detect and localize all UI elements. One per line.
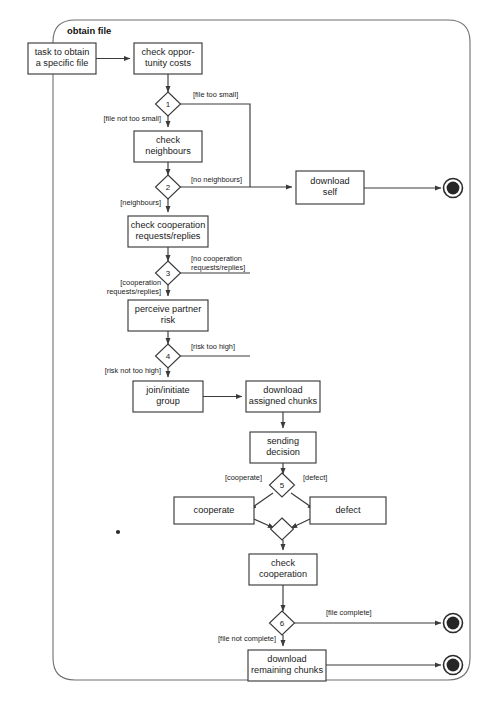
activity-label-task-to-obtain: task to obtain <box>35 47 90 57</box>
guard-neighbours: [neighbours] <box>120 198 161 207</box>
activity-label-download-self: self <box>323 187 338 197</box>
activity-node-download-assigned[interactable]: downloadassigned chunks <box>246 381 320 412</box>
activity-label-check-neighbours: neighbours <box>145 146 191 156</box>
activity-node-download-remaining[interactable]: downloadremaining chunks <box>248 650 326 681</box>
activity-node-check-opportunity[interactable]: check oppor-tunity costs <box>134 43 202 74</box>
end-node-end-file-complete[interactable] <box>444 614 463 633</box>
guard-defect: [defect] <box>303 473 327 482</box>
decision-node-decision-4[interactable]: 4 <box>156 344 181 368</box>
guard-risk-not-too-high: [risk not too high] <box>105 366 161 375</box>
activity-label-download-remaining: download <box>267 654 306 664</box>
page-speck <box>116 530 120 534</box>
decision-number-decision-4: 4 <box>166 352 171 361</box>
activity-node-task-to-obtain[interactable]: task to obtaina specific file <box>28 43 96 74</box>
activity-node-download-self[interactable]: downloadself <box>296 171 364 204</box>
end-node-end-remaining-complete[interactable] <box>444 656 463 675</box>
activity-label-check-opportunity: check oppor- <box>141 47 194 57</box>
activity-label-task-to-obtain: a specific file <box>36 58 89 68</box>
activity-label-sending-decision: sending <box>267 436 299 446</box>
activity-label-check-opportunity: tunity costs <box>145 58 191 68</box>
decision-node-decision-1[interactable]: 1 <box>156 92 181 116</box>
frame-title: obtain file <box>67 25 111 36</box>
activity-node-join-initiate-group[interactable]: join/initiategroup <box>133 381 203 412</box>
activity-node-defect[interactable]: defect <box>310 497 386 524</box>
edge-defect-to-merge <box>291 519 310 528</box>
speck-layer <box>116 530 120 534</box>
activity-label-perceive-partner-risk: perceive partner <box>135 304 201 314</box>
activity-label-perceive-partner-risk: risk <box>161 315 176 325</box>
merge-diamond-merge-cooperate-defect[interactable] <box>271 518 294 540</box>
activity-label-check-cooperation-req: check cooperation <box>131 220 206 230</box>
activity-label-download-assigned: download <box>263 385 302 395</box>
end-node-layer <box>444 179 463 675</box>
activity-diagram-canvas: obtain file task to obtaina specific fil… <box>0 0 487 707</box>
activity-label-download-remaining: remaining chunks <box>251 665 323 675</box>
activity-label-check-cooperation: cooperation <box>259 569 307 579</box>
guard-file-complete: [file complete] <box>326 608 372 617</box>
guard-coop-line1: [cooperation <box>120 278 161 287</box>
guard-file-too-small: [file too small] <box>193 90 238 99</box>
guard-no-coop-line1: [no cooperation <box>191 254 242 263</box>
activity-label-check-cooperation: check <box>271 558 295 568</box>
end-node-core-end-file-complete <box>447 617 460 630</box>
decision-node-decision-6[interactable]: 6 <box>270 611 295 635</box>
activity-node-check-cooperation[interactable]: checkcooperation <box>249 554 317 585</box>
activity-node-cooperate[interactable]: cooperate <box>174 497 254 524</box>
decision-number-decision-2: 2 <box>166 183 171 192</box>
activity-label-join-initiate-group: join/initiate <box>145 385 189 395</box>
decision-number-decision-5: 5 <box>280 481 285 490</box>
guard-no-neighbours: [no neighbours] <box>191 175 242 184</box>
activity-node-check-neighbours[interactable]: checkneighbours <box>134 131 202 162</box>
activity-node-perceive-partner-risk[interactable]: perceive partnerrisk <box>128 300 208 331</box>
decision-node-decision-2[interactable]: 2 <box>156 175 181 199</box>
activity-label-download-self: download <box>310 176 349 186</box>
end-node-end-download-self[interactable] <box>444 179 463 198</box>
decision-number-decision-6: 6 <box>280 619 285 628</box>
end-node-core-end-download-self <box>447 182 460 195</box>
activity-node-sending-decision[interactable]: sendingdecision <box>250 432 316 463</box>
guard-coop-line2: requests/replies] <box>107 287 161 296</box>
activity-label-sending-decision: decision <box>266 447 300 457</box>
guard-cooperate: [cooperate] <box>225 473 262 482</box>
end-node-core-end-remaining-complete <box>447 659 460 672</box>
decision-number-decision-1: 1 <box>166 100 171 109</box>
guard-file-not-too-small: [file not too small] <box>103 114 161 123</box>
activity-label-download-assigned: assigned chunks <box>249 396 318 406</box>
activity-node-layer: task to obtaina specific filecheck oppor… <box>28 43 386 681</box>
guard-no-coop-line2: requests/replies] <box>191 263 245 272</box>
activity-label-join-initiate-group: group <box>156 396 180 406</box>
activity-label-cooperate: cooperate <box>194 505 235 515</box>
activity-label-check-cooperation-req: requests/replies <box>136 231 201 241</box>
diagram-svg: obtain file task to obtaina specific fil… <box>0 0 487 707</box>
guard-file-not-complete: [file not complete] <box>218 634 276 643</box>
activity-label-defect: defect <box>335 505 360 515</box>
guard-risk-too-high: [risk too high] <box>191 342 235 351</box>
decision-number-decision-3: 3 <box>166 269 171 278</box>
activity-label-check-neighbours: check <box>156 135 180 145</box>
activity-node-check-cooperation-req[interactable]: check cooperationrequests/replies <box>128 216 208 247</box>
edge-cooperate-to-merge <box>254 519 274 528</box>
